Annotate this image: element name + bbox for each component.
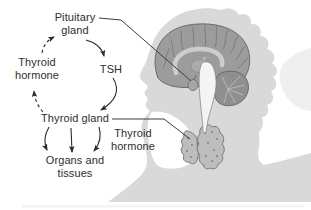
arrow-thyroid-to-organs-middle [71, 128, 72, 152]
thyroid-hormone-secreted-label: Thyroid hormone [97, 127, 169, 152]
thyroid-gland-label: Thyroid gland [35, 112, 115, 125]
thyroid-hormone-feedback-label: Thyroid hormone [1, 56, 73, 81]
arrow-pituitary-to-tsh [86, 40, 104, 56]
thyroid-right-lobe [197, 125, 224, 169]
organs-and-tissues-label: Organs and tissues [35, 154, 115, 179]
thyroid-feedback-diagram: Pituitary gland TSH Thyroid hormone Thyr… [0, 0, 311, 210]
dashed-arrow-hormone-to-pituitary [42, 37, 54, 53]
arrow-tsh-to-thyroid-gland [101, 78, 117, 110]
pituitary-gland-label: Pituitary gland [35, 11, 115, 36]
pituitary-gland-shape [188, 80, 198, 91]
bottom-shadow-strip [22, 205, 304, 208]
arrow-thyroid-to-organs-left [45, 127, 49, 150]
dashed-arrow-thyroid-gland-to-hormone [34, 91, 43, 112]
tsh-label: TSH [91, 63, 131, 76]
silhouette-echo-shape [280, 48, 311, 111]
